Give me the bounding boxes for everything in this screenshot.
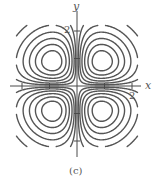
x-axis-label: x [145,79,152,92]
contour-plot: x y 2 2 (c) [0,0,162,181]
y-tick-label-2: 2 [64,24,70,35]
figure-caption: (c) [69,165,83,176]
x-tick-label-2: 2 [129,90,135,101]
y-axis-label: y [72,0,80,13]
